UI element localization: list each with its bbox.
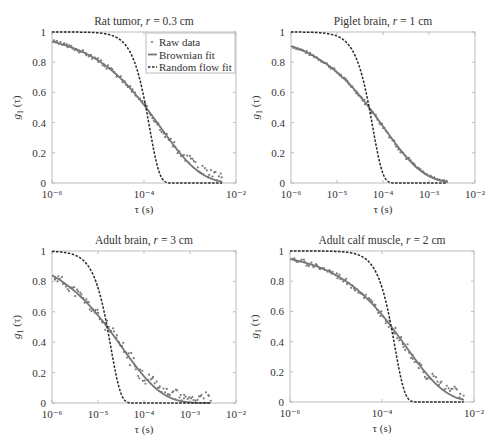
x-tick-label: 10⁻² [465, 188, 486, 200]
brownian-fit-line [52, 275, 211, 403]
x-tick-label: 10⁻⁵ [327, 188, 348, 200]
y-tick-label: 1 [41, 26, 47, 38]
x-tick-label: 10⁻² [464, 407, 485, 419]
subplot-2: Adult brain, r = 3 cm00.20.40.60.8110⁻⁶1… [10, 234, 247, 436]
x-axis-label: τ (s) [373, 422, 392, 435]
x-tick-label: 10⁻⁶ [42, 188, 63, 200]
y-tick-label: 0.2 [270, 366, 284, 378]
y-tick-label: 0.8 [271, 56, 285, 68]
y-tick-label: 0.2 [32, 147, 46, 159]
x-tick-label: 10⁻⁶ [280, 407, 301, 419]
x-tick-label: 10⁻³ [419, 188, 440, 200]
y-tick-label: 1 [41, 245, 47, 257]
subplot-title: Adult calf muscle, r = 2 cm [319, 234, 446, 247]
x-axis-label: τ (s) [374, 203, 393, 216]
y-axis-label: g1 (τ) [249, 95, 264, 119]
x-tick-label: 10⁻⁴ [134, 188, 155, 200]
legend-entry: Raw data [159, 36, 200, 48]
subplot-1: Piglet brain, r = 1 cm00.20.40.60.8110⁻⁶… [249, 15, 486, 216]
y-axis-label: g1 (τ) [10, 95, 25, 119]
subplot-title: Adult brain, r = 3 cm [95, 234, 193, 247]
y-tick-label: 0.6 [270, 305, 284, 317]
brownian-fit-line [291, 46, 447, 182]
random-flow-fit-line [290, 251, 464, 402]
x-tick-label: 10⁻² [226, 188, 247, 200]
y-tick-label: 1 [280, 26, 286, 38]
x-tick-label: 10⁻³ [180, 408, 201, 420]
figure: Rat tumor, r = 0.3 cm00.20.40.60.8110⁻⁶1… [0, 0, 498, 446]
y-tick-label: 0.4 [270, 336, 284, 348]
subplot-title: Piglet brain, r = 1 cm [334, 15, 433, 28]
brownian-fit-line [290, 259, 464, 400]
y-tick-label: 0.8 [32, 56, 46, 68]
x-tick-label: 10⁻⁴ [372, 407, 393, 419]
raw-data-points [292, 46, 448, 182]
plot-frame [290, 251, 474, 402]
subplot-0: Rat tumor, r = 0.3 cm00.20.40.60.8110⁻⁶1… [10, 15, 247, 216]
y-tick-label: 0.6 [32, 306, 46, 318]
y-tick-label: 0.2 [32, 367, 46, 379]
y-tick-label: 0.8 [270, 275, 284, 287]
x-tick-label: 10⁻² [226, 408, 247, 420]
y-tick-label: 0.8 [32, 275, 46, 287]
x-tick-label: 10⁻⁴ [373, 188, 394, 200]
x-tick-label: 10⁻⁴ [134, 408, 155, 420]
x-tick-label: 10⁻⁶ [42, 408, 63, 420]
y-tick-label: 0.6 [271, 86, 285, 98]
y-axis-label: g1 (τ) [10, 315, 25, 339]
raw-data-points [291, 257, 464, 400]
subplot-title: Rat tumor, r = 0.3 cm [94, 15, 194, 28]
subplot-3: Adult calf muscle, r = 2 cm00.20.40.60.8… [248, 234, 485, 435]
y-tick-label: 1 [279, 245, 285, 257]
x-tick-label: 10⁻⁶ [281, 188, 302, 200]
legend: Raw dataBrownian fitRandom flow fit [146, 33, 235, 73]
x-axis-label: τ (s) [135, 423, 154, 436]
legend-entry: Random flow fit [159, 61, 232, 73]
y-tick-label: 0.6 [32, 86, 46, 98]
legend-entry: Brownian fit [159, 49, 215, 61]
x-axis-label: τ (s) [135, 203, 154, 216]
random-flow-fit-line [52, 251, 211, 403]
y-axis-label: g1 (τ) [248, 314, 263, 338]
x-tick-label: 10⁻⁵ [88, 408, 109, 420]
y-tick-label: 0.4 [271, 117, 285, 129]
y-tick-label: 0.2 [271, 147, 285, 159]
y-tick-label: 0.4 [32, 336, 46, 348]
y-tick-label: 0.4 [32, 117, 46, 129]
plot-frame [291, 32, 475, 183]
